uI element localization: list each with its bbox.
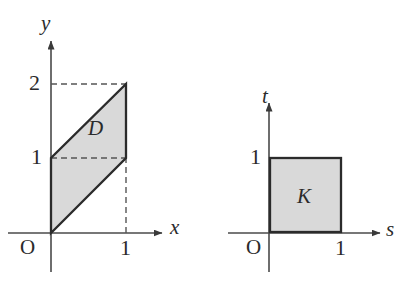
x-tick-label-1: 1 [120, 237, 131, 259]
x-axis-label: x [170, 217, 179, 238]
left-origin-label: O [20, 237, 35, 258]
s-tick-label-1: 1 [335, 237, 346, 259]
region-d-label: D [88, 118, 103, 139]
s-axis-label: s [386, 219, 394, 240]
t-tick-label-1: 1 [250, 146, 261, 168]
t-axis-label: t [262, 86, 268, 107]
right-origin-label: O [246, 237, 261, 258]
y-tick-label-2: 2 [29, 72, 40, 94]
math-figure: y x O 2 1 1 D t s O 1 1 K [0, 0, 403, 282]
region-k-label: K [297, 186, 311, 207]
y-axis-label: y [41, 13, 50, 34]
y-tick-label-1: 1 [31, 146, 42, 168]
